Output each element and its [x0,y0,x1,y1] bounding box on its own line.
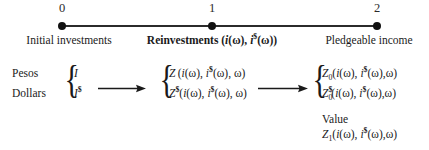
stage2-l2-i: i [183,87,186,99]
stage2-l1-omega-2: ω [217,67,225,79]
value-omega-2: ω [371,128,379,140]
stage2-l1-omega-1: ω [189,67,197,79]
value-subscript: 1 [328,134,332,143]
value-omega-1: ω [343,128,351,140]
stage2-expressions: Z (i(ω), i$(ω), ω) Z$(i(ω), i$(ω), ω) [169,63,247,103]
timeline-node-0-dot [58,22,66,30]
stage2-l1-i: i [182,67,185,79]
flow-arrow-1 [98,80,146,91]
flow-arrow-2 [258,80,308,91]
timeline-node-1-caption: Reinvestments (i(ω), i$(ω)) [147,34,277,47]
stage3-l2-dollar-superscript-2: $ [363,85,367,94]
stage3-l1-omega-3: ω [386,67,394,79]
timeline-node-2-dot [373,22,381,30]
stage2-l1-dollar-superscript: $ [209,65,213,74]
stage3-l2-omega-1: ω [342,87,350,99]
stage3-l1-omega-2: ω [371,67,379,79]
reinvestments-lead: Reinvestments ( [147,34,225,46]
pesos-label: Pesos [12,63,46,83]
timeline-node-2-number: 2 [374,2,380,15]
stage2-l1-omega-3: ω [234,67,242,79]
timeline-node-1-number: 1 [209,2,215,15]
dollars-label: Dollars [12,83,46,103]
timeline-node-0-caption: Initial investments [26,34,111,47]
stage3-l2-omega-2: ω [370,87,378,99]
stage3-l2-omega-3: ω [385,87,393,99]
timeline-flow-diagram: 0 Initial investments 1 Reinvestments (i… [0,0,429,150]
stage3-expressions: Z0(i(ω), i$(ω),ω) Z$0 (i(ω), i$(ω),ω) [322,63,397,103]
stage3-l1-omega-1: ω [343,67,351,79]
stage3-l1-dollar-superscript: $ [364,65,368,74]
stage2-symbol-Z: Z [169,67,175,79]
stage1-line-dollars: I$ [74,83,82,103]
timeline-axis [62,25,377,27]
stage3-l1-i: i [336,67,339,79]
value-i: i [336,128,339,140]
currency-row-labels: Pesos Dollars [12,63,46,103]
reinvestments-arg-1: (ω), [228,34,250,46]
timeline-node-0-number: 0 [59,2,65,15]
timeline-node-1-dot [208,22,216,30]
stage2-l2-omega-3: ω [236,87,244,99]
stage3-line-dollars: Z$0 (i(ω), i$(ω),ω) [322,83,397,103]
timeline-node-2-caption: Pledgeable income [325,34,412,47]
stage2-l2-omega-2: ω [218,87,226,99]
value-dollar-superscript: $ [364,126,368,135]
stage3-l1-subscript: 0 [328,73,332,82]
stage2-symbol-dollar-superscript: $ [175,85,179,94]
stage1-dollar-superscript: $ [78,85,82,94]
value-block: Value Z1(i(ω), i$(ω),ω) [322,112,397,142]
stage2-l2-dollar-superscript: $ [211,85,215,94]
stage3-l2-i: i [335,87,338,99]
stage2-line-dollars: Z$(i(ω), i$(ω), ω) [169,83,247,103]
stage1-line-pesos: I [74,63,82,83]
stage1-expressions: I I$ [74,63,82,103]
stage1-symbol-I: I [74,67,78,79]
stage2-l2-omega-1: ω [190,87,198,99]
value-label: Value [322,112,397,127]
stage3-line-pesos: Z0(i(ω), i$(ω),ω) [322,63,397,83]
value-omega-3: ω [386,128,394,140]
value-expression: Z1(i(ω), i$(ω),ω) [322,127,397,142]
stage2-line-pesos: Z (i(ω), i$(ω), ω) [169,63,247,83]
reinvestments-arg-2: (ω)) [257,34,277,46]
